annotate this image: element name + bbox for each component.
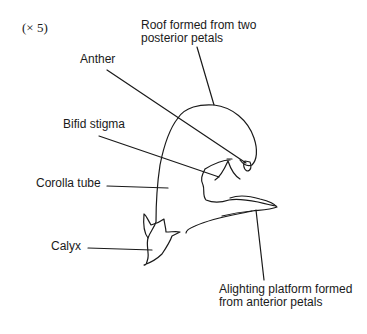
throat-outline [202, 160, 276, 206]
calyx-outline [144, 214, 180, 265]
flower-drawing [0, 0, 367, 334]
roof-leader [197, 47, 214, 105]
calyx-leader [88, 248, 152, 250]
lower-body-outline [186, 211, 252, 233]
anther-leader [107, 70, 246, 163]
roof-outline [178, 105, 256, 166]
platform-leader [256, 210, 264, 280]
corolla-tube-leader [107, 186, 168, 188]
